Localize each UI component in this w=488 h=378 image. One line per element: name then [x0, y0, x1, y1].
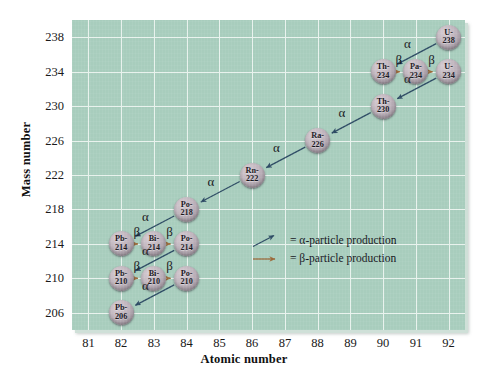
- beta-symbol: β: [134, 225, 141, 238]
- legend-label-beta: = β-particle production: [290, 250, 396, 267]
- nuclide-node: Pb-214: [109, 231, 134, 256]
- plot-panel: U-238Th-234Pa-234U-234Th-230Ra-226Rn-222…: [72, 20, 465, 330]
- alpha-symbol: α: [207, 175, 214, 188]
- nuclide-mass: 214: [148, 244, 160, 252]
- nuclide-mass: 210: [115, 278, 127, 286]
- beta-symbol: β: [428, 53, 435, 66]
- legend-label-alpha: = α-particle production: [290, 232, 396, 249]
- nuclide-mass: 234: [377, 72, 389, 80]
- nuclide-mass: 238: [442, 37, 454, 45]
- alpha-symbol: α: [142, 210, 149, 223]
- nuclide-mass: 206: [115, 313, 127, 321]
- nuclide-mass: 210: [148, 278, 160, 286]
- y-axis-tick-label: 206: [0, 307, 64, 319]
- nuclide-node: Th-234: [371, 59, 396, 84]
- nuclide-mass: 218: [180, 209, 192, 217]
- alpha-symbol: α: [142, 244, 149, 257]
- beta-symbol: β: [166, 225, 173, 238]
- nuclide-node: Po-218: [174, 197, 199, 222]
- decay-series-figure: U-238Th-234Pa-234U-234Th-230Ra-226Rn-222…: [0, 0, 488, 378]
- y-axis-tick-label: 238: [0, 31, 64, 43]
- nuclide-mass: 214: [180, 244, 192, 252]
- nuclide-mass: 210: [180, 278, 192, 286]
- legend-row-alpha: = α-particle production: [250, 232, 430, 250]
- nuclide-mass: 226: [311, 141, 323, 149]
- alpha-symbol: α: [338, 106, 345, 119]
- y-axis-tick-label: 210: [0, 272, 64, 284]
- alpha-symbol: α: [142, 279, 149, 292]
- legend-row-beta: = β-particle production: [250, 250, 430, 268]
- nuclide-node: Pb-210: [109, 266, 134, 291]
- alpha-symbol: α: [273, 141, 280, 154]
- nuclide-node: Th-230: [371, 94, 396, 119]
- y-axis-title: Mass number: [19, 100, 34, 220]
- x-axis-title: Atomic number: [0, 352, 488, 367]
- beta-symbol: β: [396, 53, 403, 66]
- legend: = α-particle production = β-particle pro…: [250, 232, 430, 268]
- nuclide-mass: 234: [410, 72, 422, 80]
- beta-arrow-icon: [250, 250, 286, 267]
- x-axis-tick-label: 92: [429, 337, 469, 349]
- nuclide-node: U-238: [436, 25, 461, 50]
- nuclide-mass: 230: [377, 106, 389, 114]
- y-axis-tick-label: 234: [0, 66, 64, 78]
- nuclide-node: Rn-222: [240, 163, 265, 188]
- alpha-arrow-icon: [250, 232, 286, 249]
- beta-symbol: β: [166, 259, 173, 272]
- alpha-symbol: α: [404, 37, 411, 50]
- alpha-symbol: α: [404, 72, 411, 85]
- nuclide-mass: 214: [115, 244, 127, 252]
- nuclide-node: Po-210: [174, 266, 199, 291]
- nuclide-mass: 222: [246, 175, 258, 183]
- y-axis-tick-label: 214: [0, 238, 64, 250]
- beta-symbol: β: [134, 259, 141, 272]
- nuclide-mass: 234: [442, 72, 454, 80]
- nuclide-node: Pb-206: [109, 300, 134, 325]
